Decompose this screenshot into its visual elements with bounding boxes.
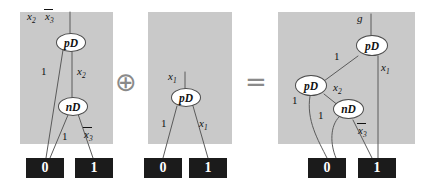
node-p1-nd[interactable]: nD bbox=[58, 97, 88, 116]
node-p2-pd[interactable]: pD bbox=[171, 88, 201, 107]
terminal-p3-one-label: 1 bbox=[374, 160, 381, 176]
terminal-p2-one-label: 1 bbox=[205, 160, 212, 176]
operator-equals: = bbox=[245, 69, 267, 95]
node-p3-pd-mid-label: pD bbox=[304, 80, 318, 92]
terminal-p3-zero[interactable]: 0 bbox=[308, 158, 346, 178]
p1-root-label-x3-bar: x3 bbox=[45, 11, 54, 25]
terminal-p3-zero-label: 0 bbox=[324, 160, 331, 176]
terminal-p1-one-label: 1 bbox=[91, 160, 98, 176]
p3-edge-label-x3-bar: x3 bbox=[358, 125, 367, 139]
p1-root-label-x2: x2 bbox=[27, 11, 36, 25]
edge-p3-nd-low bbox=[332, 117, 339, 158]
terminal-p1-zero[interactable]: 0 bbox=[26, 158, 64, 178]
p2-edge-label-1: 1 bbox=[161, 118, 167, 129]
terminal-p2-zero-label: 0 bbox=[160, 160, 167, 176]
terminal-p3-one[interactable]: 1 bbox=[358, 158, 396, 178]
node-p3-pd-top[interactable]: pD bbox=[356, 35, 388, 56]
terminal-p2-one[interactable]: 1 bbox=[189, 158, 227, 178]
p1-edge-label-x2: x2 bbox=[77, 66, 86, 80]
node-p1-pd[interactable]: pD bbox=[56, 33, 86, 52]
operator-xor-plus: ⊕ bbox=[115, 69, 137, 95]
p3-edge-label-1-lower: 1 bbox=[318, 110, 324, 121]
p3-root-label-g: g bbox=[357, 13, 363, 24]
p1-edge-label-1-left: 1 bbox=[41, 66, 47, 77]
p3-edge-label-1-top: 1 bbox=[334, 51, 340, 62]
node-p2-pd-label: pD bbox=[179, 92, 193, 104]
edge-p3-top-low bbox=[324, 56, 358, 81]
bdd-equation-figure: x2 x3 pD nD 1 x2 1 x3 0 1 ⊕ x1 pD 1 x1 0… bbox=[0, 0, 432, 188]
node-p1-nd-label: nD bbox=[66, 101, 81, 113]
node-p3-pd-top-label: pD bbox=[365, 40, 379, 52]
p1-edge-label-1-lower: 1 bbox=[62, 131, 68, 142]
node-p3-nd[interactable]: nD bbox=[333, 99, 364, 119]
p3-edge-label-x1: x1 bbox=[381, 62, 390, 76]
p1-edge-label-x3-bar: x3 bbox=[84, 129, 93, 143]
edge-p2-pd-low bbox=[163, 106, 177, 158]
node-p1-pd-label: pD bbox=[64, 37, 78, 49]
p2-root-label-x1: x1 bbox=[168, 71, 177, 85]
terminal-p2-zero[interactable]: 0 bbox=[144, 158, 182, 178]
node-p3-nd-label: nD bbox=[341, 103, 356, 115]
p2-edge-label-x1: x1 bbox=[199, 118, 208, 132]
edge-p3-mid-low bbox=[309, 96, 327, 158]
p3-edge-label-x2: x2 bbox=[333, 82, 342, 96]
node-p3-pd-mid[interactable]: pD bbox=[295, 75, 327, 96]
terminal-p1-one[interactable]: 1 bbox=[75, 158, 113, 178]
terminal-p1-zero-label: 0 bbox=[42, 160, 49, 176]
p3-edge-label-1-mid: 1 bbox=[292, 95, 298, 106]
